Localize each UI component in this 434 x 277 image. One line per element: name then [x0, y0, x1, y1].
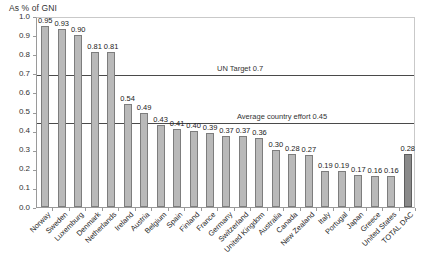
- y-axis-tick-label: 0.1: [19, 183, 30, 193]
- bar-group: 0.37: [235, 18, 251, 207]
- bar-value-label: 0.37: [236, 126, 251, 135]
- bar[interactable]: [74, 35, 82, 207]
- bar-value-label: 0.81: [87, 42, 102, 51]
- bar-value-label: 0.95: [38, 16, 53, 25]
- bar-group: 0.37: [218, 18, 234, 207]
- bar-group: 0.30: [268, 18, 284, 207]
- bar-value-label: 0.16: [384, 166, 399, 175]
- y-axis-tick-label: 1.0: [19, 12, 30, 22]
- y-axis-tick-label: 0.2: [19, 164, 30, 174]
- bar-group: 0.81: [103, 18, 119, 207]
- bar-value-label: 0.19: [318, 161, 333, 170]
- bar[interactable]: [354, 175, 362, 207]
- bar-value-label: 0.49: [137, 103, 152, 112]
- bar-group: 0.28: [284, 18, 300, 207]
- bar-value-label: 0.27: [302, 145, 317, 154]
- bar[interactable]: [404, 154, 412, 207]
- bar-value-label: 0.54: [120, 94, 135, 103]
- bar-group: 0.81: [86, 18, 102, 207]
- bar-value-label: 0.93: [54, 19, 69, 28]
- bar-group: 0.28: [400, 18, 416, 207]
- bar[interactable]: [338, 171, 346, 207]
- y-axis-tick-label: 0.5: [19, 107, 30, 117]
- y-axis: 1.00.90.80.70.60.50.40.30.20.10.0: [0, 17, 36, 208]
- bar[interactable]: [387, 176, 395, 207]
- bar[interactable]: [288, 154, 296, 207]
- bar-group: 0.43: [152, 18, 168, 207]
- bar[interactable]: [371, 176, 379, 207]
- y-axis-tick-label: 0.0: [19, 203, 30, 213]
- bar-group: 0.54: [119, 18, 135, 207]
- bar-group: 0.36: [251, 18, 267, 207]
- bar[interactable]: [58, 29, 66, 207]
- bar[interactable]: [190, 131, 198, 207]
- y-axis-tick-label: 0.4: [19, 126, 30, 136]
- bar-value-label: 0.19: [335, 161, 350, 170]
- bar-group: 0.27: [301, 18, 317, 207]
- plot-area: UN Target 0.7Average country effort 0.45…: [36, 17, 415, 208]
- bars-layer: 0.950.930.900.810.810.540.490.430.410.40…: [37, 18, 414, 207]
- bar-value-label: 0.43: [153, 115, 168, 124]
- bar-value-label: 0.90: [71, 25, 86, 34]
- bar-value-label: 0.28: [400, 144, 415, 153]
- bar[interactable]: [91, 52, 99, 207]
- bar[interactable]: [107, 52, 115, 207]
- bar[interactable]: [272, 150, 280, 207]
- bar-group: 0.95: [37, 18, 53, 207]
- bar-value-label: 0.36: [252, 128, 267, 137]
- bar-group: 0.19: [317, 18, 333, 207]
- bar[interactable]: [239, 136, 247, 207]
- bar[interactable]: [173, 129, 181, 207]
- bar[interactable]: [305, 155, 313, 207]
- bar-value-label: 0.41: [170, 119, 185, 128]
- bar-group: 0.19: [334, 18, 350, 207]
- bar[interactable]: [321, 171, 329, 207]
- y-axis-tick-label: 0.6: [19, 88, 30, 98]
- y-axis-tick-label: 0.3: [19, 145, 30, 155]
- bar-group: 0.17: [350, 18, 366, 207]
- bar-group: 0.16: [383, 18, 399, 207]
- bar[interactable]: [255, 138, 263, 207]
- bar-group: 0.41: [169, 18, 185, 207]
- bar[interactable]: [41, 26, 49, 207]
- bar-value-label: 0.37: [219, 126, 234, 135]
- bar[interactable]: [222, 136, 230, 207]
- bar-value-label: 0.40: [186, 121, 201, 130]
- bar-value-label: 0.17: [351, 165, 366, 174]
- bar[interactable]: [140, 113, 148, 207]
- bar[interactable]: [124, 104, 132, 207]
- bar[interactable]: [206, 133, 214, 207]
- bar-value-label: 0.39: [203, 123, 218, 132]
- bar-value-label: 0.28: [285, 144, 300, 153]
- bar-group: 0.39: [202, 18, 218, 207]
- chart-title: As % of GNI: [9, 3, 57, 13]
- y-axis-tick-label: 0.8: [19, 50, 30, 60]
- y-axis-tick-label: 0.9: [19, 31, 30, 41]
- bar[interactable]: [157, 125, 165, 207]
- bar-group: 0.93: [53, 18, 69, 207]
- y-axis-tick-label: 0.7: [19, 69, 30, 79]
- bar-group: 0.90: [70, 18, 86, 207]
- bar-group: 0.49: [136, 18, 152, 207]
- bar-value-label: 0.30: [269, 140, 284, 149]
- x-axis-tick-mark: [415, 208, 416, 211]
- bar-value-label: 0.16: [367, 166, 382, 175]
- bar-group: 0.40: [185, 18, 201, 207]
- bar-value-label: 0.81: [104, 42, 119, 51]
- bar-group: 0.16: [367, 18, 383, 207]
- x-axis-labels: NorwaySwedenLuxemburgDenmarkNetherlandsI…: [36, 210, 415, 277]
